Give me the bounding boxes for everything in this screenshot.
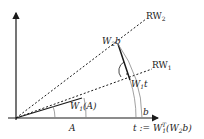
w2b-label: W2b [102,36,121,47]
b-label: b [143,107,149,117]
rw2-label: RW2 [146,11,166,22]
projection-diagram: RW2 RW1 W2b W1t W1(A) A b t := W1T(W2b) [0,0,204,139]
t-definition-label: t := W1T(W2b) [133,121,192,134]
w1a-label: W1(A) [70,101,97,112]
rw1-label: RW1 [152,60,172,71]
a-label: A [68,123,76,133]
right-angle-marker [119,62,124,77]
arc-a-inner [53,106,55,118]
w1t-label: W1t [131,79,148,90]
